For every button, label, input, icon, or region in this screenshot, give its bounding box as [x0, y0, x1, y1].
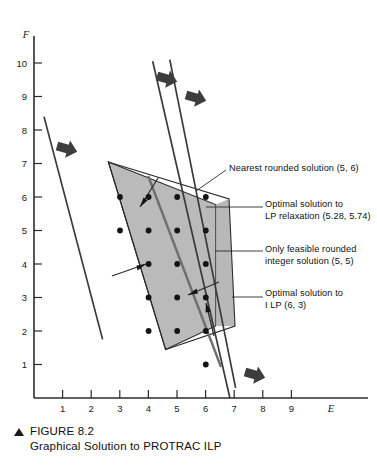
feasible-region-group	[108, 162, 235, 350]
lattice-dot	[117, 194, 123, 200]
direction-arrow-left	[55, 137, 80, 160]
x-tick-label: 4	[146, 403, 151, 414]
lattice-dot	[146, 295, 152, 301]
x-axis-label: E	[327, 403, 335, 414]
x-axis-ticks	[63, 390, 292, 398]
callout-ilp-optimal-solution: Optimal solution to I LP (6, 3)	[265, 288, 343, 311]
lattice-dot	[203, 228, 209, 234]
y-axis-label: F	[22, 29, 30, 40]
callout-leader-nearest	[196, 170, 226, 191]
lattice-dot	[174, 261, 180, 267]
y-tick-label: 5	[22, 225, 27, 236]
lattice-dot	[146, 228, 152, 234]
x-axis-tick-labels: 1 2 3 4 5 6 7 8 9	[60, 403, 294, 414]
lattice-dot	[203, 261, 209, 267]
lattice-dot	[174, 295, 180, 301]
y-tick-label: 6	[22, 192, 27, 203]
x-tick-label: 7	[232, 403, 237, 414]
lattice-dot	[203, 362, 209, 368]
x-tick-label: 9	[289, 403, 294, 414]
x-tick-label: 6	[203, 403, 208, 414]
y-tick-label: 10	[16, 58, 27, 69]
direction-arrow-lower	[243, 363, 268, 386]
lattice-dot	[174, 228, 180, 234]
lattice-dot	[203, 328, 209, 334]
y-axis-tick-labels: 1 2 3 4 5 6 7 8 9 10	[16, 58, 27, 371]
lattice-dot	[146, 194, 152, 200]
lattice-dot	[146, 261, 152, 267]
callout-nearest-rounded-solution: Nearest rounded solution (5, 6)	[229, 163, 359, 175]
figure-caption: FIGURE 8.2 Graphical Solution to PROTRAC…	[14, 424, 222, 453]
figure-caption-text: FIGURE 8.2 Graphical Solution to PROTRAC…	[30, 424, 222, 453]
y-tick-label: 9	[22, 91, 27, 102]
lattice-dot	[174, 328, 180, 334]
direction-arrow-upper-2	[184, 86, 209, 109]
lattice-dot	[146, 328, 152, 334]
y-tick-label: 7	[22, 158, 27, 169]
callout-only-feasible-rounded-solution: Only feasible rounded integer solution (…	[265, 244, 356, 267]
y-tick-label: 2	[22, 326, 27, 337]
lattice-dot	[117, 228, 123, 234]
lattice-dot	[174, 194, 180, 200]
x-tick-label: 5	[174, 403, 179, 414]
triangle-up-icon	[14, 428, 24, 436]
x-tick-label: 8	[260, 403, 265, 414]
x-tick-label: 1	[60, 403, 65, 414]
y-tick-label: 3	[22, 292, 27, 303]
y-axis-ticks	[34, 63, 42, 365]
y-tick-label: 1	[22, 359, 27, 370]
figure-container: 1 2 3 4 5 6 7 8 9 10	[0, 0, 377, 473]
lattice-dot	[203, 194, 209, 200]
callout-lp-relaxation-solution: Optimal solution to LP relaxation (5.28,…	[265, 199, 371, 222]
x-tick-label: 2	[89, 403, 94, 414]
y-tick-label: 8	[22, 125, 27, 136]
protrac-ilp-plot: 1 2 3 4 5 6 7 8 9 10	[0, 0, 377, 473]
x-tick-label: 3	[117, 403, 122, 414]
y-tick-label: 4	[22, 259, 27, 270]
lattice-dot	[203, 295, 209, 301]
